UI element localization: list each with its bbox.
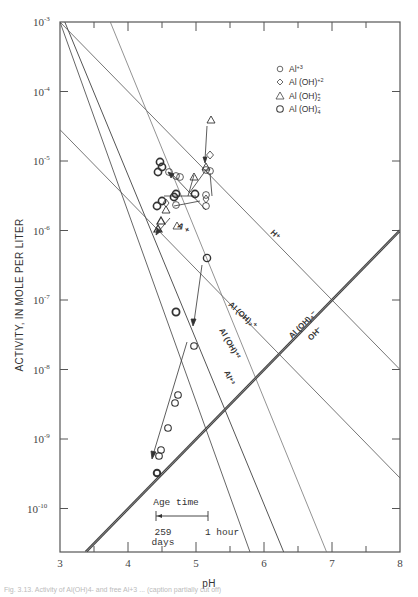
al-plus3-upper-line <box>60 22 250 552</box>
oh-minus-line-inner <box>86 231 400 553</box>
marker-aloh-plus2 <box>203 195 209 203</box>
a-plus-label: A + <box>176 221 192 235</box>
x-tick-8: 8 <box>397 557 403 569</box>
marker-aloh2-plus <box>207 116 215 123</box>
x-tick-labels: 3 4 5 6 7 8 <box>57 557 403 569</box>
y-tick-1e-3: 10-3 <box>33 15 50 28</box>
arrow-head-icon <box>203 157 207 163</box>
oh-minus-label: OH⁻ <box>306 325 324 343</box>
y-tick-1e-5: 10-5 <box>33 154 50 167</box>
line-labels: H⁺ Al (OH)₂⁺ Al (OH)⁺² Al⁺³ Al (OH)₄⁻ OH… <box>176 221 324 387</box>
legend-item-aloh-plus2: Al (OH)+2 <box>277 77 324 87</box>
al-plus3-line <box>110 22 326 552</box>
legend-label: Al+3 <box>289 64 303 74</box>
plot-frame <box>60 22 400 552</box>
arrow-head-icon <box>191 319 196 326</box>
marker-aloh-plus2 <box>207 151 214 159</box>
aloh2-plus-label: Al (OH)₂⁺ <box>227 300 259 331</box>
legend-item-al3: Al+3 <box>277 64 303 74</box>
marker-aloh4 <box>154 470 161 477</box>
legend-item-aloh4-minus: Al (OH)−4 <box>277 104 321 115</box>
h-plus-line <box>60 22 400 370</box>
age-time-start-unit: days <box>152 537 175 548</box>
arrow-left-icon <box>157 514 162 518</box>
activity-ph-chart: 3 4 5 6 7 8 10-3 10-4 10-5 10-6 10-7 10-… <box>0 0 418 597</box>
x-tick-4: 4 <box>125 557 131 569</box>
x-tick-3: 3 <box>57 557 63 569</box>
x-tick-5: 5 <box>193 557 199 569</box>
trend-arrows <box>151 126 212 459</box>
legend-item-aloh2-plus: Al (OH)+2 <box>276 91 321 102</box>
plot-lines <box>60 22 400 552</box>
figure-caption: Fig. 3.13. Activity of Al(OH)4- and free… <box>4 586 414 596</box>
legend-label: Al (OH)−4 <box>289 104 321 115</box>
marker-aloh2-plus <box>157 217 165 224</box>
y-ticks <box>60 92 400 509</box>
x-ticks <box>94 22 366 552</box>
marker-aloh4 <box>175 392 182 399</box>
y-tick-1e-6: 10-6 <box>33 224 50 237</box>
x-tick-7: 7 <box>329 557 335 569</box>
diamond-icon <box>277 79 283 85</box>
triangle-icon <box>276 92 284 99</box>
marker-aloh4 <box>191 343 198 350</box>
arrow-shaft <box>153 342 187 455</box>
y-tick-1e-10: 10-10 <box>27 502 48 515</box>
legend: Al+3 Al (OH)+2 Al (OH)+2 Al (OH)−4 <box>276 64 324 115</box>
aloh-plus2-line <box>65 22 284 552</box>
small-circle-icon <box>277 66 283 72</box>
aloh-plus2-label: Al (OH)⁺² <box>217 327 242 361</box>
age-time-title: Age time <box>153 497 199 508</box>
al-plus3-label: Al⁺³ <box>222 369 236 386</box>
marker-aloh4 <box>156 453 163 460</box>
marker-aloh4 <box>165 425 172 432</box>
h-plus-label: H⁺ <box>269 228 282 241</box>
legend-label: Al (OH)+2 <box>289 91 321 102</box>
y-tick-labels: 10-3 10-4 10-5 10-6 10-7 10-8 10-9 10-10 <box>27 15 50 515</box>
arrow-shaft <box>194 265 202 322</box>
arrow-head-icon <box>151 451 156 459</box>
marker-aloh4 <box>172 308 179 315</box>
y-axis-title: ACTIVITY, IN MOLE PER LITER <box>14 219 25 372</box>
x-tick-6: 6 <box>261 557 267 569</box>
age-time-annotation: Age time 259 days 1 hour <box>152 497 240 548</box>
marker-aloh4 <box>191 190 198 197</box>
y-tick-1e-4: 10-4 <box>33 85 50 98</box>
age-time-end-label: 1 hour <box>205 527 239 538</box>
marker-aloh2-plus <box>190 173 198 180</box>
y-tick-1e-9: 10-9 <box>33 432 50 445</box>
large-circle-icon <box>277 106 284 113</box>
legend-label: Al (OH)+2 <box>289 77 324 87</box>
marker-aloh4 <box>172 400 179 407</box>
y-tick-1e-7: 10-7 <box>33 293 50 306</box>
y-tick-1e-8: 10-8 <box>33 363 50 376</box>
marker-aloh4 <box>154 168 161 175</box>
